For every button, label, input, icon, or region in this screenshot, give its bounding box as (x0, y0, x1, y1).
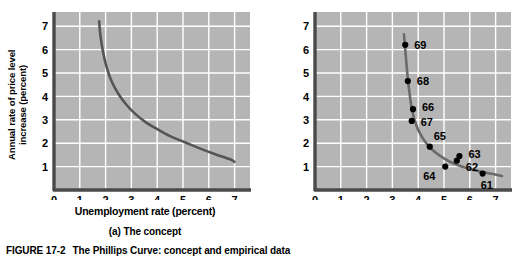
data-point-label-63: 63 (468, 148, 480, 160)
data-point-label-66: 66 (422, 101, 434, 113)
data-point-label-61: 61 (481, 179, 493, 191)
data-point-label-62: 62 (466, 161, 478, 173)
svg-text:0: 0 (312, 194, 318, 200)
svg-text:1: 1 (77, 194, 83, 200)
svg-text:2: 2 (303, 137, 309, 149)
data-point-label-69: 69 (414, 39, 426, 51)
y-axis-title-line1-a: Annual rate of price level (6, 50, 17, 160)
svg-text:5: 5 (441, 194, 447, 200)
svg-text:5: 5 (180, 194, 186, 200)
x-tick-labels-b: 0 1 2 3 4 5 6 7 (312, 194, 499, 200)
svg-text:6: 6 (206, 194, 212, 200)
data-point-label-65: 65 (434, 130, 446, 142)
data-point-68 (405, 78, 411, 84)
y-axis-title-a: Annual rate of price level increase (per… (6, 22, 28, 188)
plot-background-b (315, 12, 511, 190)
data-point-label-67: 67 (421, 116, 433, 128)
svg-text:0: 0 (51, 194, 57, 200)
figure-phillips-curve: 1 2 3 4 5 6 7 0 1 2 3 4 5 6 7 Annual rat… (0, 0, 523, 263)
data-point-65 (427, 144, 433, 150)
plot-background-a (54, 12, 250, 190)
svg-text:4: 4 (415, 194, 422, 200)
x-tick-labels-a: 0 1 2 3 4 5 6 7 (51, 194, 238, 200)
svg-text:3: 3 (128, 194, 134, 200)
data-point-61 (480, 171, 486, 177)
figure-caption: FIGURE 17-2The Phillips Curve: concept a… (6, 245, 290, 256)
data-point-label-64: 64 (423, 170, 436, 182)
y-tick-labels-a: 1 2 3 4 5 6 7 (42, 20, 49, 173)
svg-text:7: 7 (492, 194, 498, 200)
svg-text:1: 1 (303, 161, 309, 173)
svg-text:2: 2 (42, 137, 48, 149)
svg-text:5: 5 (42, 67, 48, 79)
panel-a-concept: 1 2 3 4 5 6 7 0 1 2 3 4 5 6 7 Annual rat… (0, 0, 262, 230)
svg-text:2: 2 (364, 194, 370, 200)
data-point-67 (409, 118, 415, 124)
svg-text:2: 2 (103, 194, 109, 200)
data-point-62 (454, 158, 460, 164)
svg-text:3: 3 (389, 194, 395, 200)
panel-a-chart: 1 2 3 4 5 6 7 0 1 2 3 4 5 6 7 (0, 0, 262, 200)
data-point-64 (442, 163, 448, 169)
y-tick-labels-b: 1 2 3 4 5 6 7 (303, 20, 310, 173)
svg-text:4: 4 (154, 194, 161, 200)
panel-b-data-1960s: 69 68 66 67 65 63 62 64 61 1 2 3 4 5 6 7 (261, 0, 523, 230)
data-point-66 (410, 106, 416, 112)
svg-text:7: 7 (303, 20, 309, 32)
svg-text:1: 1 (338, 194, 344, 200)
svg-text:3: 3 (42, 114, 48, 126)
panel-b-chart: 69 68 66 67 65 63 62 64 61 1 2 3 4 5 6 7 (261, 0, 523, 200)
data-point-label-68: 68 (417, 75, 429, 87)
figure-number: FIGURE 17-2 (6, 245, 65, 256)
svg-text:3: 3 (303, 114, 309, 126)
svg-text:6: 6 (467, 194, 473, 200)
x-axis-title-a: Unemployment rate (percent) (30, 205, 260, 217)
svg-text:6: 6 (303, 44, 309, 56)
svg-text:4: 4 (303, 91, 310, 103)
svg-text:7: 7 (231, 194, 237, 200)
svg-text:7: 7 (42, 20, 48, 32)
data-point-69 (402, 42, 408, 48)
figure-caption-text: The Phillips Curve: concept and empirica… (72, 245, 290, 256)
y-axis-title-line2-a: increase (percent) (17, 65, 28, 145)
svg-text:5: 5 (303, 67, 309, 79)
svg-text:6: 6 (42, 44, 48, 56)
panel-a-caption: (a) The concept (30, 226, 260, 237)
svg-text:1: 1 (42, 161, 48, 173)
svg-text:4: 4 (42, 91, 49, 103)
